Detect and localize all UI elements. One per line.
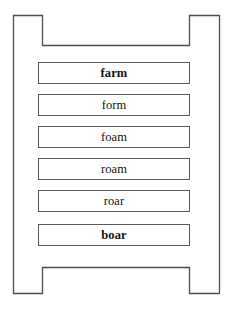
ladder-rungs: farm form foam roam roar boar (0, 0, 231, 310)
ladder-rung-3: foam (38, 126, 190, 148)
ladder-rung-1: farm (38, 62, 190, 84)
word-ladder-figure: farm form foam roam roar boar (0, 0, 231, 310)
ladder-rung-label: farm (101, 67, 128, 80)
ladder-rung-6: boar (38, 224, 190, 246)
ladder-rung-label: foam (101, 131, 127, 144)
ladder-rung-2: form (38, 94, 190, 116)
ladder-rung-4: roam (38, 158, 190, 180)
ladder-rung-5: roar (38, 190, 190, 212)
ladder-rung-label: form (102, 99, 127, 112)
ladder-rung-label: roam (101, 163, 127, 176)
ladder-rung-label: roar (104, 195, 125, 208)
ladder-rung-label: boar (101, 229, 126, 242)
